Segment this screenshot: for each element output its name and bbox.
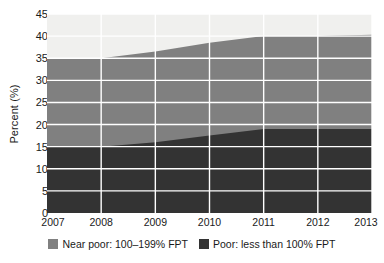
y-tick-label: 15 [24, 141, 48, 153]
poor-swatch [199, 239, 209, 249]
y-tick-label: 40 [24, 30, 48, 42]
legend-entry[interactable]: Near poor: 100–199% FPT [48, 238, 188, 250]
y-tick-label: 5 [24, 185, 48, 197]
near-poor-swatch [48, 239, 58, 249]
y-axis-title: Percent (%) [8, 66, 20, 162]
stacked-area-chart: Percent (%) 051015202530354045 200720082… [0, 0, 384, 263]
y-tick-label: 35 [24, 52, 48, 64]
x-tick-label: 2013 [354, 216, 377, 228]
y-tick-label: 45 [24, 8, 48, 20]
y-tick-label: 25 [24, 96, 48, 108]
y-tick-label: 20 [24, 119, 48, 131]
plot-area [47, 14, 372, 213]
plot-svg [47, 14, 372, 213]
x-tick-label: 2008 [89, 216, 112, 228]
x-tick-label: 2011 [252, 216, 275, 228]
legend-label: Near poor: 100–199% FPT [62, 238, 188, 250]
x-tick-label: 2010 [198, 216, 221, 228]
y-tick-label: 30 [24, 74, 48, 86]
legend-entry[interactable]: Poor: less than 100% FPT [199, 238, 336, 250]
x-tick-label: 2012 [306, 216, 329, 228]
x-tick-label: 2007 [41, 216, 64, 228]
y-tick-label: 10 [24, 163, 48, 175]
x-tick-label: 2009 [144, 216, 167, 228]
chart-legend: Near poor: 100–199% FPTPoor: less than 1… [0, 238, 384, 250]
legend-label: Poor: less than 100% FPT [213, 238, 336, 250]
